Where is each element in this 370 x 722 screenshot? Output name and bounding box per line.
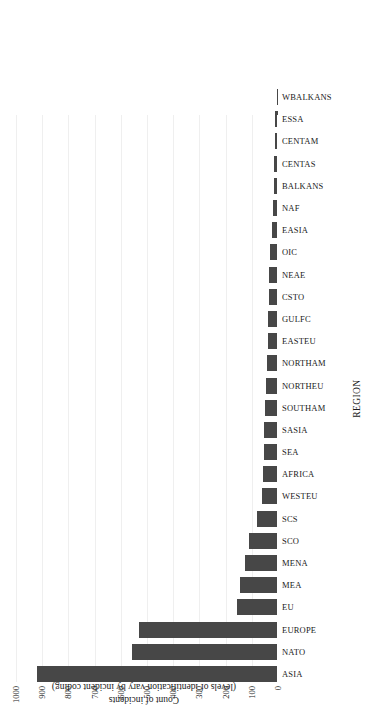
category-tick-cell: SASIA — [280, 422, 350, 438]
bar[interactable] — [264, 444, 278, 460]
value-axis-title-main: Count of incidents — [109, 695, 179, 705]
category-tick-cell: OIC — [280, 244, 350, 260]
category-tick-label: CENTAM — [282, 137, 318, 147]
bar-chart-figure: 01002003004005006007008009001000 Count o… — [0, 0, 370, 722]
category-tick-label: MENA — [282, 558, 308, 568]
category-tick-cell: NORTHAM — [280, 355, 350, 371]
bar-cell[interactable] — [16, 533, 278, 549]
category-tick-cell: BALKANS — [280, 178, 350, 194]
category-tick-cell: GULFC — [280, 311, 350, 327]
bar[interactable] — [245, 555, 278, 571]
bar[interactable] — [257, 511, 278, 527]
category-tick-cell: MENA — [280, 555, 350, 571]
category-tick-label: SEA — [282, 447, 299, 457]
bar-cell[interactable] — [16, 355, 278, 371]
category-tick-cell: NORTHEU — [280, 378, 350, 394]
bar-cell[interactable] — [16, 489, 278, 505]
category-tick-label: BALKANS — [282, 181, 324, 191]
bar-series — [16, 115, 278, 682]
category-tick-cell: CENTAS — [280, 156, 350, 172]
bar-cell[interactable] — [16, 378, 278, 394]
category-tick-cell: SCO — [280, 533, 350, 549]
category-tick-cell: WBALKANS — [280, 89, 350, 105]
chart-rotation-wrapper: 01002003004005006007008009001000 Count o… — [0, 0, 370, 722]
category-tick-label: NAF — [282, 203, 300, 213]
category-tick-label: NORTHAM — [282, 358, 326, 368]
bar-cell[interactable] — [16, 289, 278, 305]
bar-cell[interactable] — [16, 422, 278, 438]
category-tick-label: CENTAS — [282, 159, 316, 169]
bar[interactable] — [277, 89, 278, 105]
bar-cell[interactable] — [16, 577, 278, 593]
bar-cell[interactable] — [16, 111, 278, 127]
bar-cell[interactable] — [16, 156, 278, 172]
bar-cell[interactable] — [16, 666, 278, 682]
category-tick-label: SOUTHAM — [282, 403, 325, 413]
category-tick-cell: MEA — [280, 577, 350, 593]
bar[interactable] — [240, 577, 279, 593]
category-tick-label: NATO — [282, 647, 305, 657]
category-tick-label: SASIA — [282, 425, 308, 435]
bar-cell[interactable] — [16, 333, 278, 349]
category-tick-label: EUROPE — [282, 625, 316, 635]
category-tick-label: OIC — [282, 247, 297, 257]
category-tick-label: NORTHEU — [282, 381, 324, 391]
bar-cell[interactable] — [16, 466, 278, 482]
bar-cell[interactable] — [16, 244, 278, 260]
category-tick-cell: EUROPE — [280, 622, 350, 638]
bar[interactable] — [263, 466, 278, 482]
bar[interactable] — [249, 533, 278, 549]
bar-cell[interactable] — [16, 200, 278, 216]
category-tick-label: AFRICA — [282, 469, 314, 479]
category-tick-cell: ESSA — [280, 111, 350, 127]
bar-cell[interactable] — [16, 222, 278, 238]
category-tick-cell: EASIA — [280, 222, 350, 238]
category-tick-cell: SEA — [280, 444, 350, 460]
value-tick-label: 1000 — [11, 686, 21, 703]
category-tick-cell: SCS — [280, 511, 350, 527]
category-tick-label: EASIA — [282, 225, 308, 235]
category-tick-cell: SOUTHAM — [280, 400, 350, 416]
bar-cell[interactable] — [16, 511, 278, 527]
category-tick-label: ESSA — [282, 114, 304, 124]
category-tick-cell: AFRICA — [280, 466, 350, 482]
bar-cell[interactable] — [16, 134, 278, 150]
bar-cell[interactable] — [16, 644, 278, 660]
category-axis-title: REGION — [352, 115, 362, 682]
bar-cell[interactable] — [16, 89, 278, 105]
category-tick-label: WBALKANS — [282, 92, 332, 102]
category-tick-label: NEAE — [282, 270, 305, 280]
bar-cell[interactable] — [16, 444, 278, 460]
bar[interactable] — [237, 599, 278, 615]
bar-cell[interactable] — [16, 267, 278, 283]
category-tick-label: SCS — [282, 514, 298, 524]
category-tick-label: ASIA — [282, 669, 303, 679]
bar-cell[interactable] — [16, 599, 278, 615]
category-tick-label: CSTO — [282, 292, 304, 302]
category-tick-label: EASTEU — [282, 336, 316, 346]
category-tick-cell: EASTEU — [280, 333, 350, 349]
bar[interactable] — [37, 666, 278, 682]
bar-cell[interactable] — [16, 622, 278, 638]
category-axis: ASIANATOEUROPEEUMEAMENASCOSCSWESTEUAFRIC… — [280, 115, 350, 682]
category-tick-cell: CSTO — [280, 289, 350, 305]
category-tick-cell: WESTEU — [280, 489, 350, 505]
value-axis-title: Count of incidents (levels of identifica… — [29, 680, 259, 706]
bar-cell[interactable] — [16, 555, 278, 571]
axis-baseline — [277, 115, 278, 682]
bar-cell[interactable] — [16, 178, 278, 194]
category-tick-cell: ASIA — [280, 666, 350, 682]
value-tick-label: 0 — [273, 686, 283, 690]
category-tick-cell: NATO — [280, 644, 350, 660]
category-tick-cell: NAF — [280, 200, 350, 216]
category-tick-label: EU — [282, 602, 294, 612]
bar-cell[interactable] — [16, 311, 278, 327]
bar[interactable] — [264, 422, 278, 438]
bar-cell[interactable] — [16, 400, 278, 416]
bar[interactable] — [139, 622, 278, 638]
bar[interactable] — [132, 644, 278, 660]
plot-area — [16, 115, 278, 682]
category-tick-cell: CENTAM — [280, 134, 350, 150]
bar[interactable] — [262, 489, 278, 505]
category-tick-labels: ASIANATOEUROPEEUMEAMENASCOSCSWESTEUAFRIC… — [280, 83, 350, 682]
